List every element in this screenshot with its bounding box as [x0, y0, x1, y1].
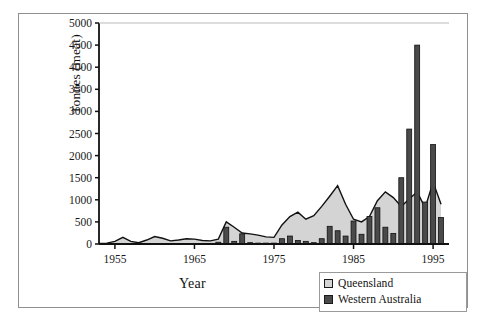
x-axis-tick-label: 1955: [103, 253, 126, 265]
y-axis-tick-label: 3500: [69, 83, 92, 95]
bar-western-australia: [383, 227, 388, 244]
y-axis-tick-label: 4500: [69, 39, 92, 51]
bar-western-australia: [327, 226, 332, 244]
legend-item-western-australia[interactable]: Western Australia: [324, 292, 463, 306]
chart-outer-frame: Tonnes (meat) Year 050010001500200025003…: [18, 13, 468, 308]
area-series-queensland: [99, 182, 441, 244]
bar-western-australia: [240, 234, 245, 244]
bar-western-australia: [351, 221, 356, 244]
legend-label-western-australia: Western Australia: [338, 293, 422, 305]
y-axis-tick-label: 500: [75, 216, 93, 228]
bar-western-australia: [423, 202, 428, 244]
bar-western-australia: [439, 217, 444, 244]
bar-western-australia: [391, 233, 396, 244]
x-axis-tick-label: 1965: [183, 253, 206, 265]
y-axis-tick-label: 5000: [69, 17, 92, 29]
x-axis-tick-label: 1995: [422, 253, 445, 265]
bar-western-australia: [343, 236, 348, 244]
y-axis-tick-label: 1000: [69, 194, 92, 206]
chart-legend: Queensland Western Australia: [319, 272, 467, 312]
legend-item-queensland[interactable]: Queensland: [324, 276, 463, 290]
y-axis-tick-label: 2000: [69, 150, 92, 162]
y-axis-tick-label: 2500: [69, 128, 92, 140]
bar-western-australia: [367, 217, 372, 244]
y-axis-tick-label: 0: [86, 238, 92, 250]
figure-container: Tonnes (meat) Year 050010001500200025003…: [0, 0, 486, 325]
bar-western-australia: [407, 129, 412, 244]
y-axis-tick-label: 4000: [69, 61, 92, 73]
x-axis-tick-label: 1985: [342, 253, 365, 265]
bar-western-australia: [399, 178, 404, 244]
bar-western-australia: [359, 234, 364, 244]
legend-label-queensland: Queensland: [338, 277, 393, 289]
bar-western-australia: [415, 45, 420, 244]
y-axis-tick-label: 1500: [69, 172, 92, 184]
bar-western-australia: [224, 227, 229, 244]
y-axis-tick-label: 3000: [69, 105, 92, 117]
bar-western-australia: [431, 145, 436, 244]
legend-swatch-western-australia-icon: [324, 295, 333, 304]
bar-western-australia: [375, 208, 380, 244]
bar-western-australia: [287, 236, 292, 244]
bar-western-australia: [335, 231, 340, 244]
legend-swatch-queensland-icon: [324, 279, 333, 288]
x-axis-tick-label: 1975: [263, 253, 286, 265]
chart-plot: 0500100015002000250030003500400045005000…: [19, 14, 469, 309]
